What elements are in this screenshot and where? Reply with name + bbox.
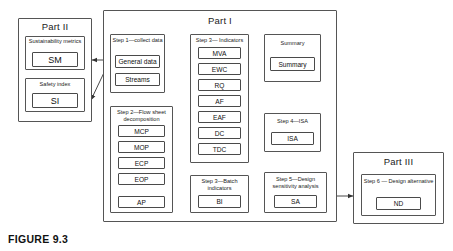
node-streams[interactable]: Streams [115, 73, 160, 86]
part-3-title: Part III [353, 157, 444, 168]
node-isa[interactable]: ISA [271, 132, 314, 145]
group-step-4-title: Step 4—ISA [265, 118, 320, 125]
figure-9-3: Part II Sustainability metrics SM Safety… [0, 0, 453, 251]
node-ap[interactable]: AP [118, 196, 165, 208]
node-mcp[interactable]: MCP [118, 125, 165, 137]
group-sustainability-metrics-title: Sustainability metrics [27, 38, 83, 45]
node-sm[interactable]: SM [32, 52, 78, 67]
node-general-data[interactable]: General data [115, 55, 160, 68]
node-ecp[interactable]: ECP [118, 157, 165, 169]
node-rq[interactable]: RQ [198, 79, 241, 91]
group-step-3-indicators-title: Step 3— Indicators [191, 37, 248, 44]
group-summary-title: Summary [265, 40, 320, 47]
group-step-3-batch-title: Step 3—Batch indicators [191, 178, 248, 192]
node-eop[interactable]: EOP [118, 173, 165, 185]
group-step-6-title: Step 6 — Design alternative [362, 178, 435, 185]
node-eaf[interactable]: EAF [198, 111, 241, 123]
node-mva[interactable]: MVA [198, 47, 241, 59]
node-af[interactable]: AF [198, 95, 241, 107]
node-ewc[interactable]: EWC [198, 63, 241, 75]
part-1-title: Part I [103, 16, 337, 27]
part-2-title: Part II [18, 22, 92, 33]
node-bi[interactable]: BI [198, 195, 241, 208]
node-si[interactable]: SI [32, 93, 78, 108]
group-step-1-title: Step 1—collect data [112, 37, 163, 44]
group-step-5-title: Step 5—Design sensitivity analysis [265, 176, 326, 190]
node-summary[interactable]: Summary [270, 57, 315, 71]
node-tdc[interactable]: TDC [198, 143, 241, 155]
group-step-2-title: Step 2—Flow sheet decomposition [112, 109, 171, 123]
group-safety-index-title: Safety index [27, 81, 83, 88]
node-dc[interactable]: DC [198, 127, 241, 139]
figure-caption: FIGURE 9.3 [8, 233, 68, 245]
node-sa[interactable]: SA [274, 195, 317, 208]
node-mop[interactable]: MOP [118, 141, 165, 153]
node-nd[interactable]: ND [376, 197, 421, 210]
